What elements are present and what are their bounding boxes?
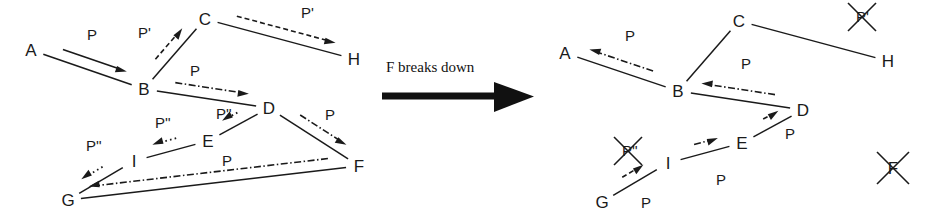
flow-label-ei: P'': [155, 114, 171, 131]
flow-arrowhead-icon-gi: [633, 165, 644, 175]
flow-ei: P'': [152, 114, 176, 145]
flow-arrowhead-icon-bd: [237, 90, 249, 97]
flow-arrowhead-icon-ig: [81, 170, 92, 180]
flow-label-df: P: [325, 106, 335, 123]
flow-shaft-ie: [694, 140, 709, 144]
flow-shaft-ab: [63, 49, 118, 68]
node-label-i: I: [666, 154, 671, 173]
flow-shaft-gi: [622, 169, 635, 177]
edge-e-i: [147, 144, 196, 157]
node-label-g: G: [61, 191, 74, 210]
flow-label-db: P: [741, 55, 751, 72]
flow-label-ig: P'': [86, 137, 102, 154]
flow-arrowhead-icon-ab: [115, 66, 127, 72]
node-label-e: E: [736, 134, 747, 153]
flow-label-ch: P': [301, 4, 314, 21]
flow-de: P'': [216, 105, 237, 122]
flow-label-de: P'': [216, 105, 232, 122]
flow-shaft-ba: [598, 52, 653, 71]
flow-ig: P'': [81, 137, 102, 179]
panel-after-nodes: ABCDEFGHI: [559, 12, 909, 212]
node-label-b: B: [672, 82, 683, 101]
node-e[interactable]: E: [736, 134, 747, 153]
node-i[interactable]: I: [132, 152, 137, 171]
node-b[interactable]: B: [672, 82, 683, 101]
flow-shaft-ig: [89, 167, 102, 175]
node-label-d: D: [263, 99, 275, 118]
flow-ig_old: P'': [614, 137, 642, 165]
flow-arrowhead-icon-ch: [324, 38, 336, 44]
transition-label: F breaks down: [386, 59, 475, 75]
diagram-canvas: PP'P'PP''P''P''PP ABCDEFGHI F breaks dow…: [0, 0, 928, 224]
flow-label-ba: P: [625, 27, 635, 44]
flow-arrowhead-icon-ie: [707, 138, 718, 145]
transition-arrow-head-icon: [494, 82, 534, 112]
node-a[interactable]: A: [559, 44, 571, 63]
panel-before-flows: PP'P'PP''P''P''PP: [63, 4, 347, 187]
node-label-f: F: [354, 157, 364, 176]
node-c[interactable]: C: [733, 12, 745, 31]
node-i[interactable]: I: [666, 154, 671, 173]
node-e[interactable]: E: [202, 132, 213, 151]
flow-arrowhead-icon-ei: [152, 137, 163, 144]
node-f[interactable]: F: [877, 152, 909, 184]
node-label-a: A: [559, 44, 571, 63]
transition-arrow-group: F breaks down: [382, 59, 534, 112]
node-label-g: G: [595, 193, 608, 212]
edge-a-b: [577, 57, 665, 87]
node-label-e: E: [202, 132, 213, 151]
edge-c-h: [752, 24, 876, 57]
node-b[interactable]: B: [138, 80, 149, 99]
flow-arrowhead-icon-fg: [89, 181, 100, 188]
node-g[interactable]: G: [61, 191, 74, 210]
node-d[interactable]: D: [263, 99, 275, 118]
panel-before-nodes: ABCDEFGHI: [25, 10, 364, 210]
panel-after-edges: [577, 24, 875, 195]
flow-label-bd: P: [190, 62, 200, 79]
flow-shaft-bd: [175, 83, 240, 93]
flow-ch: P': [848, 3, 876, 31]
flow-ch: P': [237, 4, 336, 44]
flow-shaft-db: [710, 85, 775, 95]
flow-ie: P: [694, 138, 726, 188]
node-a[interactable]: A: [25, 41, 37, 60]
node-label-d: D: [797, 101, 809, 120]
flow-label-fg: P: [222, 152, 232, 169]
flow-bd: P: [175, 62, 249, 97]
node-c[interactable]: C: [199, 10, 211, 29]
node-g[interactable]: G: [595, 193, 608, 212]
flow-label-gi: P: [641, 194, 651, 211]
flow-arrowhead-icon-ba: [589, 49, 601, 55]
node-h[interactable]: H: [348, 50, 360, 69]
node-label-a: A: [25, 41, 37, 60]
node-label-b: B: [138, 80, 149, 99]
flow-label-ed: P: [785, 125, 795, 142]
flow-shaft-ei: [161, 138, 176, 142]
flow-df: P: [300, 106, 346, 145]
edge-b-c: [687, 31, 731, 81]
flow-ed: P: [763, 111, 795, 142]
flow-arrowhead-icon-db: [701, 81, 713, 88]
node-h[interactable]: H: [882, 52, 894, 71]
edge-i-g: [79, 168, 123, 194]
flow-ab: P: [63, 26, 127, 72]
panel-after-flows: PP'PPPPP'': [589, 3, 876, 211]
flow-arrowhead-icon-ed: [768, 111, 779, 120]
flow-bc: P': [138, 24, 182, 59]
flow-db: P: [701, 55, 775, 95]
edge-b-d: [691, 93, 790, 108]
node-label-c: C: [199, 10, 211, 29]
flow-fg: P: [89, 152, 328, 187]
flow-label-ie: P: [716, 171, 726, 188]
edge-e-i: [681, 146, 730, 159]
edge-i-g: [613, 170, 657, 196]
flow-label-ab: P: [87, 26, 97, 43]
diagram-svg: PP'P'PP''P''P''PP ABCDEFGHI F breaks dow…: [0, 0, 928, 224]
flow-label-bc: P': [138, 24, 151, 41]
node-f[interactable]: F: [354, 157, 364, 176]
node-label-c: C: [733, 12, 745, 31]
node-label-h: H: [348, 50, 360, 69]
node-label-h: H: [882, 52, 894, 71]
node-d[interactable]: D: [797, 101, 809, 120]
edge-d-f: [280, 115, 348, 159]
